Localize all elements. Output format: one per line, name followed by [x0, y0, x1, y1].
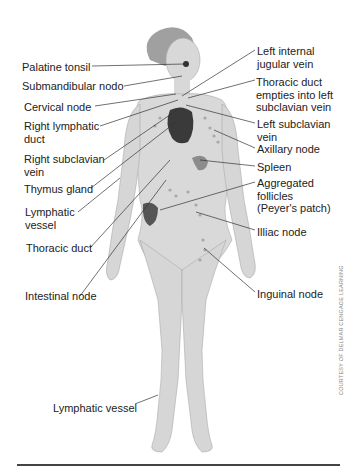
label-right-subclavian-vein: Right subclavian vein	[24, 153, 105, 178]
label-spleen: Spleen	[257, 161, 291, 174]
label-axillary-node: Axillary node	[257, 143, 320, 156]
label-thymus-gland: Thymus gland	[24, 183, 93, 196]
label-left-subclavian-vein: Left subclavian vein	[257, 118, 330, 143]
bottom-rule	[17, 464, 340, 466]
label-thoracic-duct: Thoracic duct	[26, 242, 92, 255]
head	[166, 38, 200, 82]
label-right-lymphatic-duct: Right lymphatic duct	[24, 120, 99, 145]
label-lymphatic-vessel-leg: Lymphatic vessel	[53, 402, 137, 415]
arm-left	[222, 104, 255, 278]
leg-left	[182, 240, 226, 452]
label-left-internal-jugular-vein: Left internal jugular vein	[257, 45, 314, 70]
label-aggregated-follicles: Aggregated follicles (Peyer's patch)	[257, 177, 331, 215]
label-thoracic-duct-empties: Thoracic duct empties into left subclavi…	[256, 76, 333, 114]
label-palatine-tonsil: Palatine tonsil	[22, 61, 91, 74]
lymphatic-system-figure: Palatine tonsil Submandibular nodo Cervi…	[0, 0, 357, 472]
label-intestinal-node: Intestinal node	[25, 290, 97, 303]
label-lymphatic-vessel-arm: Lymphatic vessel	[25, 206, 75, 231]
leg-right	[140, 240, 182, 452]
label-submandibular-node: Submandibular nodo	[22, 80, 124, 93]
label-cervical-node: Cervical node	[24, 101, 91, 114]
label-illiac-node: Illiac node	[257, 226, 307, 239]
credit-line: COURTESY OF DELMAR CENGAGE LEARNING	[338, 265, 344, 395]
label-inguinal-node: Inguinal node	[257, 288, 323, 301]
